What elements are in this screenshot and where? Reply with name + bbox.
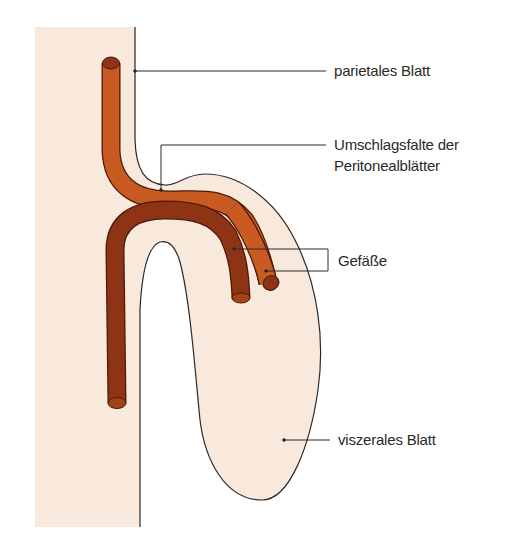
peritoneum-diagram	[0, 0, 511, 560]
label-visceral: viszerales Blatt	[338, 430, 436, 450]
leader-fold-dot	[160, 189, 163, 192]
label-fold-line2: Peritonealblätter	[334, 156, 440, 176]
label-vessels: Gefäße	[338, 251, 387, 271]
leader-visceral-dot	[283, 439, 286, 442]
vessel-lower-right-end	[232, 293, 250, 303]
vessel-lower-bottom-end	[108, 398, 126, 409]
label-parietal: parietales Blatt	[334, 61, 430, 81]
vessel-upper-top-end	[103, 57, 120, 69]
leader-vessels-dot-1	[233, 248, 236, 251]
leader-parietal-dot	[134, 70, 137, 73]
leader-vessels-dot-2	[265, 270, 268, 273]
label-fold-line1: Umschlagsfalte der	[334, 135, 459, 155]
